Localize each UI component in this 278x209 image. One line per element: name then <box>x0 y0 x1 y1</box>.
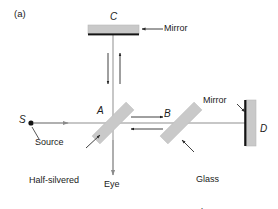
beamsplitter-a-label: A <box>97 105 104 117</box>
mirror-d-callout-label: Mirror <box>203 95 227 105</box>
panel-label: (a) <box>14 9 26 20</box>
mirror-c <box>88 25 139 35</box>
eye-label: Eye <box>104 179 120 189</box>
mirror-c-callout-label: Mirror <box>164 23 188 33</box>
source-point-s <box>28 120 33 125</box>
glass-plate-label: Glass plate <box>196 151 219 209</box>
figure-canvas: (a) C Mirror A B D Mirror S Source Half-… <box>0 0 278 209</box>
half-silvered-mirror-label-line2: mirror <box>29 208 79 209</box>
source-label: Source <box>35 137 64 147</box>
glass-plate-leader-line <box>182 140 194 152</box>
glass-plate-label-line1: Glass <box>196 174 219 185</box>
mirror-c-label: C <box>110 11 117 23</box>
mirror-d-callout-line <box>237 104 245 112</box>
glass-plate-b-label: B <box>164 108 171 120</box>
mirror-d <box>244 100 256 146</box>
mirror-d-label: D <box>260 123 267 135</box>
source-point-label: S <box>19 114 26 126</box>
half-silvered-mirror-label: Half-silvered mirror <box>29 152 79 209</box>
glass-plate-label-line2: plate <box>196 207 219 209</box>
half-silvered-mirror-label-line1: Half-silvered <box>29 175 79 186</box>
